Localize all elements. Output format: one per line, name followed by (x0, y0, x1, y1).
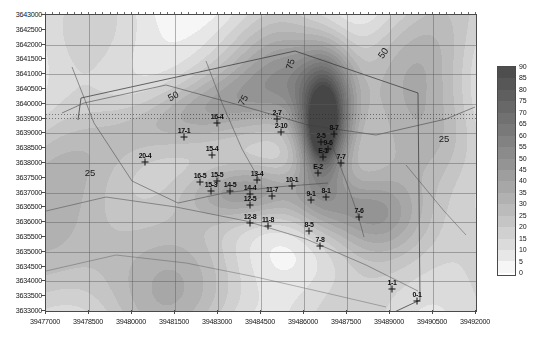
x-axis-tick-mark (45, 310, 46, 314)
x-axis-tick-mark (88, 310, 89, 314)
well-marker-icon (181, 134, 188, 141)
y-axis-tick-label: 3636500 (0, 202, 42, 211)
colorbar-band-75 (498, 90, 515, 101)
y-axis-tick-mark (41, 44, 45, 45)
colorbar-band-30 (498, 193, 515, 204)
y-axis-tick-label: 3639000 (0, 128, 42, 137)
colorbar-tick-55: 55 (519, 143, 526, 150)
well-marker-icon (265, 223, 272, 230)
y-axis-tick-mark (41, 103, 45, 104)
y-axis-tick-mark (41, 295, 45, 296)
x-axis-minor-tick (145, 12, 146, 14)
colorbar-band-80 (498, 78, 515, 89)
colorbar-band-60 (498, 124, 515, 135)
x-axis-minor-tick (52, 12, 53, 14)
y-axis-tick-mark (41, 29, 45, 30)
well-marker-icon (269, 193, 276, 200)
well-marker-icon (356, 214, 363, 221)
grid-line-horizontal (46, 163, 476, 164)
x-axis-minor-tick (188, 12, 189, 14)
well-marker-icon (227, 188, 234, 195)
grid-line-horizontal (46, 74, 476, 75)
x-axis-tick-mark (260, 310, 261, 314)
colorbar-band-10 (498, 239, 515, 250)
colorbar-tick-10: 10 (519, 246, 526, 253)
y-axis-tick-label: 3635500 (0, 232, 42, 241)
x-axis-minor-tick (411, 12, 412, 14)
x-axis-minor-tick (389, 12, 390, 14)
well-marker-icon (214, 120, 221, 127)
x-axis-tick-mark (475, 310, 476, 314)
y-axis-tick-mark (41, 162, 45, 163)
y-axis-tick-mark (41, 88, 45, 89)
colorbar-band-65 (498, 113, 515, 124)
well-marker-icon (323, 194, 330, 201)
x-axis-minor-tick (432, 12, 433, 14)
x-axis-minor-tick (360, 12, 361, 14)
well-marker-icon (308, 197, 315, 204)
x-axis-minor-tick (74, 12, 75, 14)
x-axis-tick-mark (174, 310, 175, 314)
well-marker-icon (254, 177, 261, 184)
well-marker-icon (320, 154, 327, 161)
x-axis-minor-tick (274, 12, 275, 14)
y-axis-tick-mark (41, 221, 45, 222)
x-axis-minor-tick (117, 12, 118, 14)
colorbar-band-55 (498, 136, 515, 147)
grid-line-horizontal (46, 193, 476, 194)
colorbar-tick-30: 30 (519, 200, 526, 207)
x-axis-tick-mark (131, 310, 132, 314)
well-marker-icon (289, 183, 296, 190)
colorbar-tick-25: 25 (519, 211, 526, 218)
y-axis-tick-mark (41, 118, 45, 119)
x-axis-minor-tick (382, 12, 383, 14)
x-axis-minor-tick (224, 12, 225, 14)
y-axis-tick-mark (41, 280, 45, 281)
colorbar (497, 66, 516, 276)
x-axis-minor-tick (353, 12, 354, 14)
survey-outline (78, 51, 420, 311)
plot-area: 17-116-420-415-416-515-515-314-513-414-4… (45, 14, 477, 312)
y-axis-tick-mark (41, 73, 45, 74)
y-axis-tick-mark (41, 192, 45, 193)
grid-line-vertical (476, 15, 477, 311)
x-axis-minor-tick (289, 12, 290, 14)
x-axis-minor-tick (102, 12, 103, 14)
colorbar-band-5 (498, 250, 515, 261)
y-axis-tick-label: 3637500 (0, 173, 42, 182)
well-marker-icon (389, 286, 396, 293)
colorbar-tick-35: 35 (519, 188, 526, 195)
x-axis-tick-label: 39492000 (445, 317, 505, 326)
well-marker-icon (338, 160, 345, 167)
well-marker-icon (306, 228, 313, 235)
y-axis-tick-label: 3634000 (0, 276, 42, 285)
x-axis-minor-tick (160, 12, 161, 14)
colorbar-tick-85: 85 (519, 74, 526, 81)
well-marker-icon (209, 152, 216, 159)
colorbar-band-45 (498, 159, 515, 170)
x-axis-minor-tick (174, 12, 175, 14)
y-axis-tick-label: 3642500 (0, 25, 42, 34)
y-axis-tick-label: 3641500 (0, 54, 42, 63)
y-axis-tick-mark (41, 236, 45, 237)
colorbar-band-50 (498, 147, 515, 158)
colorbar-band-20 (498, 216, 515, 227)
x-axis-tick-mark (217, 310, 218, 314)
y-axis-tick-mark (41, 177, 45, 178)
x-axis-minor-tick (239, 12, 240, 14)
x-axis-minor-tick (88, 12, 89, 14)
y-axis-tick-label: 3633000 (0, 306, 42, 315)
y-axis-tick-label: 3641000 (0, 69, 42, 78)
y-axis-tick-mark (41, 132, 45, 133)
x-axis-minor-tick (110, 12, 111, 14)
x-axis-minor-tick (325, 12, 326, 14)
x-axis-minor-tick (403, 12, 404, 14)
x-axis-minor-tick (217, 12, 218, 14)
colorbar-tick-70: 70 (519, 108, 526, 115)
colorbar-tick-45: 45 (519, 166, 526, 173)
x-axis-minor-tick (203, 12, 204, 14)
colorbar-tick-50: 50 (519, 154, 526, 161)
x-axis-tick-mark (389, 310, 390, 314)
colorbar-band-70 (498, 101, 515, 112)
well-marker-icon (325, 146, 332, 153)
